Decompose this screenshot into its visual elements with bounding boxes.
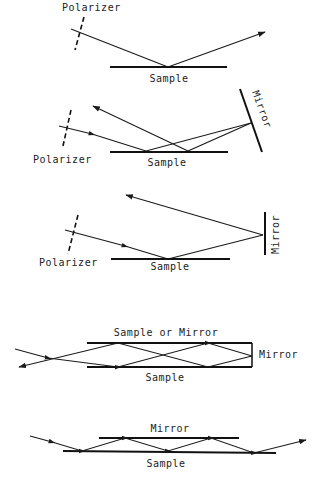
incident-ray bbox=[59, 126, 146, 151]
ray-sample-to-mirror bbox=[168, 235, 263, 259]
panel-parallel-mirror-multiple-reflection: Mirror Sample bbox=[30, 423, 306, 469]
end-mirror-label: Mirror bbox=[259, 349, 298, 360]
sample-surface bbox=[63, 451, 276, 453]
outgoing-ray-arrow-icon bbox=[19, 343, 252, 367]
reflection-geometry-diagram: Polarizer Sample Mirror Polarizer Sample… bbox=[0, 0, 316, 481]
bottom-surface-label: Sample bbox=[145, 372, 184, 383]
reflected-ray-arrow-icon bbox=[168, 32, 265, 67]
polarizer-label: Polarizer bbox=[62, 2, 121, 13]
sample-label: Sample bbox=[146, 458, 185, 469]
polarizer-icon bbox=[68, 215, 78, 254]
polarizer-label: Polarizer bbox=[33, 154, 92, 165]
incident-ray bbox=[65, 230, 168, 259]
incident-ray bbox=[71, 29, 168, 67]
mirror-label: Mirror bbox=[270, 215, 281, 254]
mirror-label: Mirror bbox=[250, 89, 274, 130]
return-ray-arrow-icon bbox=[126, 195, 263, 235]
sample-label: Sample bbox=[150, 261, 189, 272]
exit-ray-arrow-icon bbox=[93, 106, 188, 151]
sample-label: Sample bbox=[147, 157, 186, 168]
sample-label: Sample bbox=[149, 73, 188, 84]
mirror-label: Mirror bbox=[150, 423, 189, 434]
panel-retro-reflection: Mirror Polarizer Sample bbox=[39, 195, 281, 272]
panel-cavity-multiple-reflection: Sample or Mirror Mirror Sample bbox=[15, 327, 298, 383]
top-surface-label: Sample or Mirror bbox=[114, 327, 218, 338]
panel-double-reflection: Mirror Polarizer Sample bbox=[33, 89, 274, 168]
polarizer-label: Polarizer bbox=[39, 257, 98, 268]
panel-single-reflection: Polarizer Sample bbox=[62, 2, 265, 84]
